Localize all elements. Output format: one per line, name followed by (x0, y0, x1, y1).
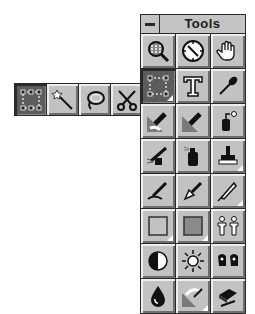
flyout-indicator (202, 235, 208, 241)
text-t-icon (180, 73, 206, 99)
rubber-stamp-tool-button[interactable] (211, 139, 245, 173)
fill-brush-icon (180, 108, 206, 134)
minus-icon (145, 23, 155, 26)
calligraphy-tool-button[interactable] (141, 174, 175, 208)
bucket-icon (215, 108, 241, 134)
palette-title: Tools (160, 15, 245, 33)
filled-rectangle-tool-button[interactable] (176, 209, 210, 243)
measure-tool-button[interactable] (176, 34, 210, 68)
pattern-tool-button[interactable] (211, 209, 245, 243)
flyout-scissors-button[interactable] (111, 84, 142, 115)
flyout-indicator (202, 305, 208, 311)
spraycan-icon (180, 143, 206, 169)
gloves-icon (215, 248, 241, 274)
calligraphy-pen-icon (145, 178, 171, 204)
hand-icon (215, 38, 241, 64)
pen-tool-button[interactable] (176, 174, 210, 208)
sun-icon (180, 248, 206, 274)
smudge-tool-button[interactable] (176, 279, 210, 313)
eyedropper-tool-button[interactable] (211, 69, 245, 103)
compass-icon (180, 38, 206, 64)
contrast-circle-icon (145, 248, 171, 274)
fill-brush-tool-button[interactable] (176, 104, 210, 138)
pen-nib-icon (180, 178, 206, 204)
paint-bucket-tool-button[interactable] (211, 104, 245, 138)
tools-palette: Tools (140, 14, 246, 314)
airbrush-icon (145, 143, 171, 169)
palette-titlebar[interactable]: Tools (141, 15, 245, 34)
tool-grid (141, 34, 245, 313)
flyout-magic-wand-button[interactable] (47, 84, 78, 115)
bezier-tool-button[interactable] (211, 174, 245, 208)
brush-tool-button[interactable] (141, 104, 175, 138)
blur-tool-button[interactable] (141, 279, 175, 313)
zoom-tool-button[interactable] (141, 34, 175, 68)
system-menu-button[interactable] (141, 15, 160, 33)
airbrush-tool-button[interactable] (141, 139, 175, 173)
magnifier-icon (145, 38, 171, 64)
effects-tool-button[interactable] (211, 244, 245, 278)
hand-tool-button[interactable] (211, 34, 245, 68)
brightness-tool-button[interactable] (176, 244, 210, 278)
hollow-rectangle-tool-button[interactable] (141, 209, 175, 243)
flyout-lasso-button[interactable] (79, 84, 110, 115)
eraser-icon (215, 283, 241, 309)
flyout-indicator (237, 200, 243, 206)
paintbrush-icon (145, 108, 171, 134)
lasso-icon (83, 88, 107, 112)
eyedropper-icon (215, 73, 241, 99)
spray-can-tool-button[interactable] (176, 139, 210, 173)
flyout-indicator (167, 235, 173, 241)
marquee-icon (19, 88, 43, 112)
scissors-icon (115, 88, 139, 112)
selection-flyout (14, 83, 143, 116)
magic-wand-icon (51, 88, 75, 112)
flyout-rectangle-select-button[interactable] (15, 84, 46, 115)
paper-dolls-icon (215, 213, 241, 239)
water-drop-icon (145, 283, 171, 309)
flyout-indicator (167, 95, 173, 101)
eraser-tool-button[interactable] (211, 279, 245, 313)
contrast-tool-button[interactable] (141, 244, 175, 278)
rectangle-select-tool-button[interactable] (141, 69, 175, 103)
text-tool-button[interactable] (176, 69, 210, 103)
flyout-indicator (237, 165, 243, 171)
